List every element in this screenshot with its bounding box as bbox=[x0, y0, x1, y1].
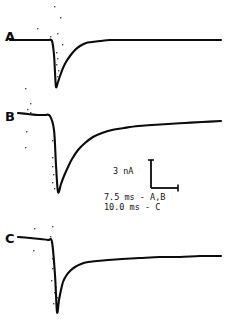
scan-speckle bbox=[25, 6, 63, 309]
scale-bar-time-label-c: 10.0 ms - C bbox=[104, 203, 160, 213]
panel-label-b: B bbox=[5, 110, 15, 123]
electrophysiology-figure: A B C 3 nA 7.5 ms - A,B 10.0 ms - C bbox=[0, 0, 226, 322]
scale-bar-amplitude-label: 3 nA bbox=[113, 167, 133, 177]
trace-c bbox=[18, 237, 221, 313]
panel-label-a: A bbox=[5, 30, 15, 43]
trace-a bbox=[10, 40, 221, 88]
trace-b bbox=[18, 113, 221, 193]
current-traces bbox=[0, 0, 226, 322]
panel-label-c: C bbox=[5, 232, 15, 245]
scale-bar bbox=[148, 160, 178, 192]
